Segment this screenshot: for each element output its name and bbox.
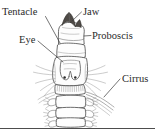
label-cirrus: Cirrus (122, 73, 148, 84)
ciliated-fringe-band (55, 85, 85, 95)
cirrus-filaments (86, 92, 114, 115)
leader-line-proboscis (84, 36, 91, 37)
parapodium-right-3 (85, 120, 97, 128)
prostomium-head (53, 56, 88, 85)
leader-line-cirrus (104, 79, 120, 97)
leader-line-tentacle (46, 17, 61, 44)
eye-spot-right (74, 76, 77, 79)
label-proboscis: Proboscis (92, 30, 133, 41)
parapodium-right-2 (85, 109, 98, 120)
parapodium-left-2 (44, 109, 57, 120)
parapodium-left-3 (45, 120, 57, 128)
trunk-segments (56, 95, 86, 127)
label-jaw: Jaw (83, 6, 100, 17)
trunk-segment-2 (56, 107, 86, 118)
figure-container: Tentacle Jaw Proboscis Eye Cirrus (0, 0, 155, 136)
worm-anatomy-diagram: Tentacle Jaw Proboscis Eye Cirrus (0, 0, 155, 136)
label-eye: Eye (19, 34, 36, 45)
eye-spot-left (63, 76, 66, 79)
trunk-segment-3 (56, 118, 85, 127)
label-tentacle: Tentacle (2, 6, 38, 17)
leader-line-jaw (72, 12, 82, 21)
trunk-segment-1 (56, 95, 86, 108)
